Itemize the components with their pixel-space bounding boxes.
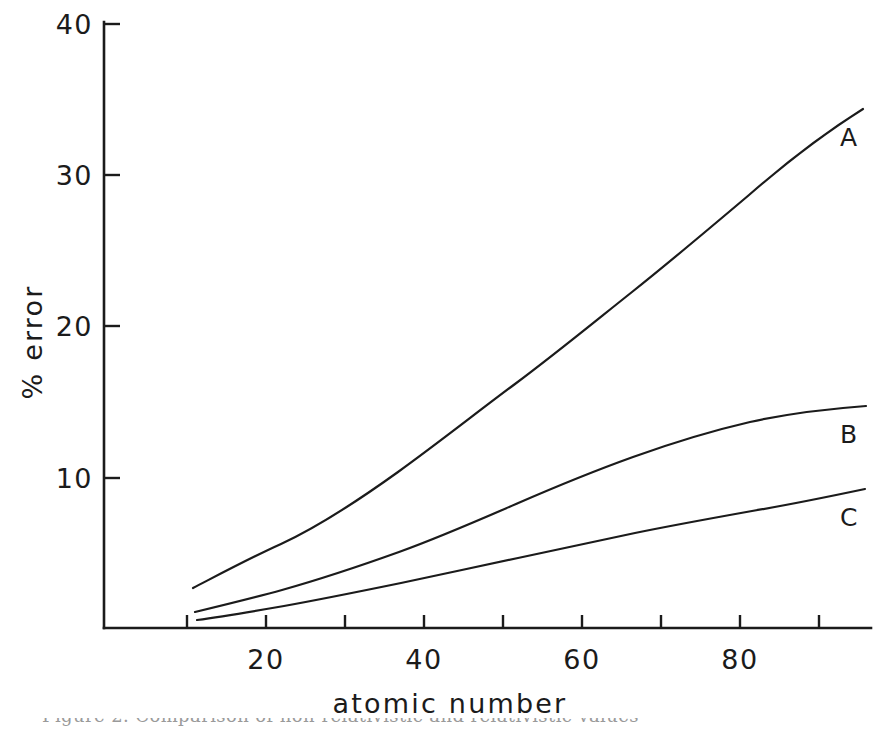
- figure-caption: Figure 2. Comparison of non-relativistic…: [42, 718, 872, 726]
- series-label-a: A: [840, 123, 857, 152]
- figure-caption-strip: Figure 2. Comparison of non-relativistic…: [0, 718, 885, 733]
- series-label-c: C: [840, 503, 857, 532]
- series-curve-c: [197, 489, 865, 620]
- x-axis-title: atomic number: [333, 688, 568, 719]
- series-curve-a: [193, 109, 863, 588]
- x-tick-label-60: 60: [563, 644, 600, 675]
- x-tick-label-40: 40: [405, 644, 442, 675]
- series-label-b: B: [840, 420, 857, 449]
- y-tick-label-40: 40: [56, 9, 93, 40]
- figure-root: 40 30 20 10 20 40 60 80 % error atomic n…: [0, 0, 885, 733]
- y-tick-label-10: 10: [56, 463, 93, 494]
- y-tick-label-30: 30: [56, 160, 93, 191]
- x-tick-label-80: 80: [721, 644, 758, 675]
- y-axis-title: % error: [17, 284, 48, 399]
- chart-canvas: 40 30 20 10 20 40 60 80 % error atomic n…: [0, 0, 885, 733]
- y-tick-label-20: 20: [56, 311, 93, 342]
- x-tick-label-20: 20: [247, 644, 284, 675]
